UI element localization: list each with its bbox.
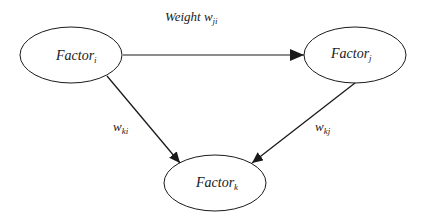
edge-j-to-k: wkj [252, 83, 355, 163]
node-factor-j-label: Factorj [330, 46, 372, 63]
node-factor-j: Factorj [304, 27, 406, 83]
arrow-j-to-k [252, 83, 355, 163]
edge-i-to-k: wki [107, 76, 180, 163]
factor-weight-diagram: Factori Factorj Factork Weight wji wki w… [0, 0, 425, 223]
node-factor-k-label: Factork [195, 175, 239, 192]
edge-label-w-ji: Weight wji [165, 9, 218, 26]
edge-label-w-kj: wkj [315, 119, 331, 136]
node-factor-i: Factori [20, 27, 122, 83]
node-factor-i-label: Factori [55, 48, 97, 65]
node-factor-k: Factork [164, 155, 266, 211]
edge-i-to-j: Weight wji [123, 9, 304, 55]
edge-label-w-ki: wki [113, 119, 129, 136]
